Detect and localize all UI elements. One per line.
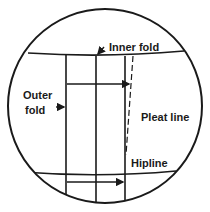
waistline-curve — [28, 51, 184, 55]
pleat-line-label: Pleat line — [141, 111, 189, 123]
hipline-label: Hipline — [131, 157, 168, 169]
pleat-diagram: Inner fold Outer fold Pleat line Hipline — [0, 0, 210, 212]
outer-fold-label-line2: fold — [25, 104, 45, 116]
inner-fold-pointer-icon — [98, 47, 104, 54]
inner-fold-label: Inner fold — [109, 41, 159, 53]
outer-fold-label-line1: Outer — [23, 89, 53, 101]
pleat-line-dashed — [126, 56, 133, 155]
hipline-curve — [22, 171, 176, 175]
